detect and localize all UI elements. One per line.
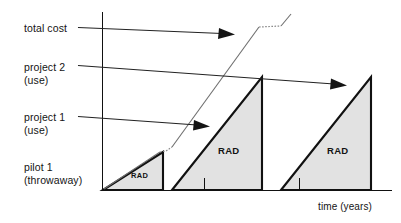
rad-label-project-1: RAD (218, 145, 239, 156)
label-pilot-1-line1: pilot 1 (24, 161, 53, 173)
callout-line-project-1 (78, 117, 197, 126)
callout-line-project-2 (78, 66, 334, 85)
rad-label-project-2: RAD (327, 145, 348, 156)
rad-label-pilot: RAD (131, 171, 148, 180)
label-project-1-line1: project 1 (24, 111, 65, 123)
rad-triangle-project-2 (281, 77, 371, 190)
callout-line-total-cost (78, 28, 222, 34)
callout-arrow-total-cost (218, 28, 235, 39)
x-axis-label: time (years) (318, 201, 372, 214)
label-project-2: project 2(use) (24, 61, 65, 86)
total-cost-segment-3 (281, 14, 291, 26)
label-pilot-1: pilot 1(throwaway) (24, 161, 82, 186)
label-total-cost-line1: total cost (24, 22, 67, 34)
rad-lifecycle-figure: total cost project 2(use) project 1(use)… (0, 0, 401, 223)
callout-arrow-project-2 (330, 79, 347, 90)
total-cost-step-1 (160, 147, 172, 152)
label-project-1: project 1(use) (24, 111, 65, 136)
label-total-cost: total cost (24, 22, 67, 35)
callout-arrow-project-1 (193, 120, 210, 131)
label-project-2-line1: project 2 (24, 61, 65, 73)
rad-triangle-project-1 (172, 77, 262, 190)
total-cost-step-2 (259, 26, 281, 27)
label-project-1-line2: (use) (24, 124, 48, 136)
label-pilot-1-line2: (throwaway) (24, 174, 82, 186)
label-project-2-line2: (use) (24, 74, 48, 86)
